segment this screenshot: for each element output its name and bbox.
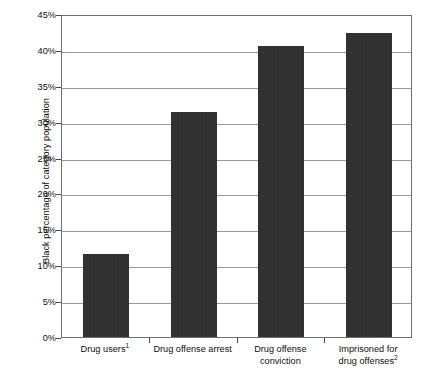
- y-axis-tick-mark: [56, 51, 61, 52]
- x-axis-category-label: Imprisoned fordrug offenses2: [324, 344, 412, 367]
- x-axis-tick-mark: [149, 338, 150, 343]
- y-axis-tick-label: 5%: [22, 297, 56, 307]
- y-axis-tick-label: 15%: [22, 225, 56, 235]
- bar: [258, 46, 304, 337]
- y-axis-tick-label: 45%: [22, 10, 56, 20]
- y-axis-tick-mark: [56, 338, 61, 339]
- x-axis-labels: Drug users1Drug offense arrestDrug offen…: [61, 344, 412, 374]
- y-axis-tick-mark: [56, 15, 61, 16]
- y-axis-tick-mark: [56, 266, 61, 267]
- y-axis-tick-mark: [56, 159, 61, 160]
- y-axis-tick-mark: [56, 302, 61, 303]
- bar-chart: Black percentage of category population …: [0, 0, 427, 375]
- y-axis-tick-mark: [56, 123, 61, 124]
- y-axis-tick-label: 25%: [22, 154, 56, 164]
- y-axis-tick-label: 40%: [22, 46, 56, 56]
- plot-area: [61, 15, 412, 338]
- y-axis-tick-labels: 0%5%10%15%20%25%30%35%40%45%: [22, 0, 56, 375]
- x-axis-category-label: Drug users1: [61, 344, 149, 356]
- y-axis-tick-label: 10%: [22, 261, 56, 271]
- x-axis-tick-mark: [237, 338, 238, 343]
- y-axis-tick-label: 30%: [22, 118, 56, 128]
- y-axis-tick-label: 20%: [22, 189, 56, 199]
- y-axis-tick-mark: [56, 230, 61, 231]
- y-axis-tick-mark: [56, 194, 61, 195]
- bar: [83, 254, 129, 337]
- y-axis-tick-mark: [56, 87, 61, 88]
- x-axis-category-label: Drug offense arrest: [149, 344, 237, 356]
- x-axis-tick-mark: [324, 338, 325, 343]
- y-axis-tick-label: 35%: [22, 82, 56, 92]
- x-axis-category-label: Drug offenseconviction: [237, 344, 325, 367]
- bar: [171, 112, 217, 337]
- bars-group: [62, 16, 411, 337]
- y-axis-tick-label: 0%: [22, 333, 56, 343]
- bar: [346, 33, 392, 337]
